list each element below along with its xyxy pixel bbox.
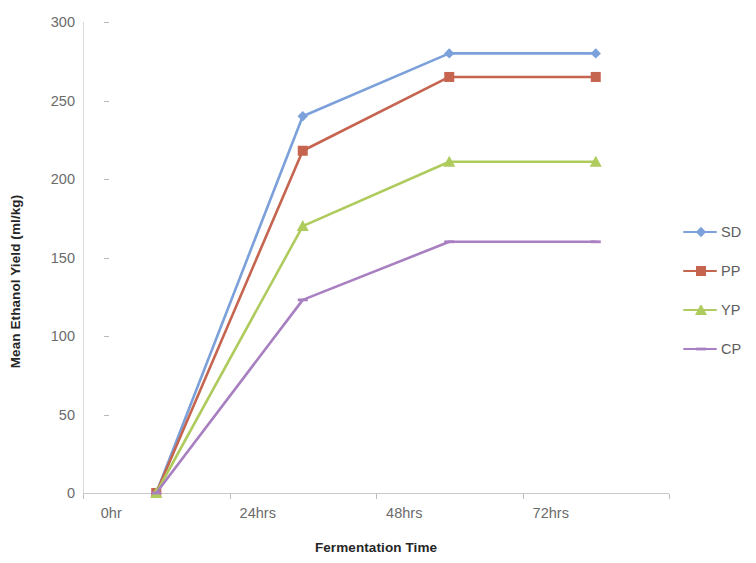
x-axis-tick-label: 24hrs [213,506,303,521]
x-axis-tick-mark [230,494,231,499]
series-line [156,242,596,493]
data-point-marker [591,48,601,58]
chart-container: Mean Ethanol Yield (ml/kg) 0501001502002… [0,0,756,563]
legend-marker-icon [694,305,708,319]
legend-item-yp[interactable]: YP [683,300,756,320]
legend-swatch-diamond-icon [683,224,717,240]
x-axis-tick-label: 72hrs [506,506,596,521]
series-line [156,77,596,493]
legend-label: PP [717,264,740,279]
x-axis-tick-mark [83,494,84,499]
data-point-marker [591,72,601,82]
legend-item-pp[interactable]: PP [683,261,756,281]
legend-marker-icon [694,227,708,241]
legend-label: SD [717,225,741,240]
legend-swatch-dash-icon [683,341,717,357]
x-axis-tick-mark [376,494,377,499]
series-sd [151,48,601,498]
legend-swatch-square-icon [683,263,717,279]
legend-item-sd[interactable]: SD [683,222,756,242]
data-point-marker [696,348,706,351]
legend-label: CP [717,342,741,357]
series-line [156,53,596,493]
data-point-marker [444,72,454,82]
series-line [156,162,596,493]
legend-item-cp[interactable]: CP [683,339,756,359]
x-axis-tick-label: 48hrs [359,506,449,521]
legend-marker-icon [694,344,708,358]
x-axis-tick-mark [669,494,670,499]
data-point-marker [298,111,308,121]
series-cp [151,240,601,494]
series-yp [150,156,602,498]
data-point-marker [298,146,308,156]
chart-legend: SDPPYPCP [683,222,756,378]
legend-swatch-triangle-icon [683,302,717,318]
data-point-marker [444,48,454,58]
x-axis-tick-label: 0hr [66,506,156,521]
x-axis-title: Fermentation Time [83,540,669,555]
plot-area [0,0,756,563]
data-point-marker [696,266,706,276]
legend-label: YP [717,303,740,318]
data-point-marker [591,240,601,243]
data-point-marker [695,305,707,315]
data-point-marker [151,492,161,495]
x-axis-tick-mark [523,494,524,499]
data-point-marker [696,227,706,237]
data-point-marker [444,240,454,243]
series-pp [151,72,601,498]
legend-marker-icon [694,266,708,280]
data-point-marker [298,298,308,301]
